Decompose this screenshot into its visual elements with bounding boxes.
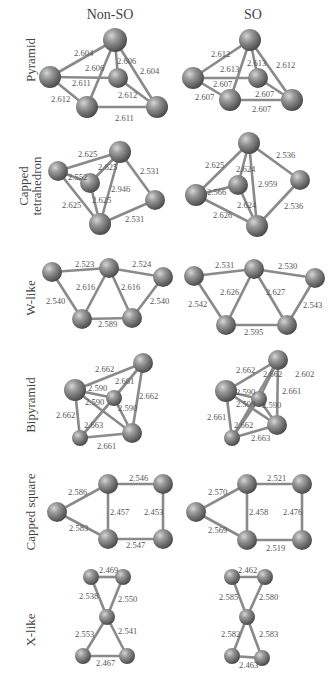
atom [292,530,312,550]
bond-length-label: 2.462 [238,565,257,575]
bond-length-label: 2.662 [263,369,282,379]
bond-length-label: 2.547 [126,540,145,550]
bond-length-label: 2.540 [46,296,65,306]
atom [153,474,173,494]
molecule-so: 2.6122.6132.6132.6122.6072.6072.6072.607 [182,29,303,114]
molecule-so: 2.6622.6622.6022.6612.5902.5902.5902.661… [207,350,314,446]
bond-length-label: 2.540 [150,296,169,306]
atom [277,315,297,335]
bond-length-label: 2.582 [221,629,240,639]
bond-length-label: 2.536 [284,201,303,211]
molecule-nonso: 2.5232.5242.6162.6162.5402.5402.589 [42,258,173,329]
bond-length-label: 2.524 [132,259,152,269]
bond-length-label: 2.590 [88,383,107,393]
bond-length-label: 2.612 [276,60,295,70]
atom [146,96,168,118]
bond-length-label: 2.463 [239,660,258,670]
cluster-structures-figure: Non-SO SO Pyramid Capped tetrahedron W-l… [0,0,330,674]
bond-length-label: 2.590 [118,403,137,413]
bond-length-label: 2.607 [195,92,214,102]
bond-length-label: 2.661 [115,376,134,386]
bond-length-label: 2.959 [258,179,277,189]
atom [185,184,207,206]
atom [248,68,268,88]
bond-length-label: 2.590 [236,387,255,397]
bond-length-label: 2.661 [282,386,301,396]
bond-length-label: 2.453 [144,507,163,517]
atom [89,213,111,235]
atom [48,161,68,181]
atom [83,569,99,585]
bond-length-label: 2.595 [244,327,263,337]
atom [281,89,303,111]
bond-length-label: 2.457 [110,507,129,517]
atom [99,609,115,625]
bond-length-label: 2.542 [188,299,207,309]
bond-length-label: 2.530 [278,261,297,271]
bond-length-label: 2.521 [267,473,286,483]
bond-length-label: 2.543 [303,300,322,310]
bond-length-label: 2.607 [255,89,274,99]
bond-length-label: 2.590 [262,400,281,410]
atom [64,379,86,401]
bond-length-label: 2.606 [117,56,136,66]
bond-length-label: 2.625 [62,200,81,210]
atom [153,267,173,287]
atom [42,262,62,282]
bond-length-label: 2.627 [266,287,285,297]
atom [47,502,67,522]
atom [75,648,91,664]
bond-length-label: 2.616 [121,282,140,292]
atom [290,170,310,190]
atom [72,430,88,446]
bond-length-label: 2.531 [125,214,144,224]
bond-length-label: 2.611 [115,113,134,123]
bond-length-label: 2.625 [205,160,224,170]
bond-length-label: 2.613 [220,64,239,74]
bond-length-label: 2.546 [129,473,148,483]
bond-length-label: 2.585 [219,592,238,602]
atom [237,530,257,550]
molecule-nonso: 2.4692.5382.5502.5532.5412.467 [75,565,137,668]
atom [153,529,173,549]
bond-length-label: 2.566 [207,187,226,197]
atom [186,502,206,522]
bond-length-label: 2.662 [234,420,253,430]
molecule-so: 2.6252.6242.5362.9592.5662.6242.6262.536 [185,132,310,237]
atom [246,215,268,237]
atom [239,29,261,51]
atom [109,141,131,163]
bond-length-label: 2.662 [139,391,158,401]
molecule-nonso: 2.6042.6062.6062.6042.6112.6122.6122.611 [39,28,168,123]
atom [257,569,273,585]
bond-length-label: 2.661 [97,441,116,451]
atom [238,132,260,154]
bond-length-label: 2.531 [215,260,234,270]
atom [119,648,135,664]
molecule-so: 2.4622.5852.5802.5822.5832.463 [219,565,278,670]
bond-length-label: 2.589 [98,319,117,329]
atom [184,266,204,286]
bond-length-label: 2.467 [96,658,115,668]
bond-length-label: 2.476 [283,507,302,517]
atom [103,28,127,52]
bond-length-label: 2.552 [68,172,87,182]
atom [305,268,325,288]
atom [224,430,240,446]
atom [224,648,240,664]
atom [122,423,142,443]
bond-length-label: 2.612 [51,94,70,104]
bond-length-label: 2.624 [237,200,257,210]
atom [219,89,241,111]
molecule-nonso: 2.6622.6612.5902.6622.5902.5902.6622.663… [56,353,158,451]
bond-length-label: 2.625 [98,162,117,172]
bond-length-label: 2.583 [259,629,278,639]
atom [99,258,119,278]
bond-length-label: 2.536 [276,150,295,160]
atom [292,474,312,494]
atom [76,96,98,118]
atom [182,67,204,89]
bond-length-label: 2.604 [74,48,94,58]
molecule-so: 2.5312.5302.6262.6272.5422.5432.595 [184,259,325,337]
bond-length-label: 2.662 [95,364,114,374]
